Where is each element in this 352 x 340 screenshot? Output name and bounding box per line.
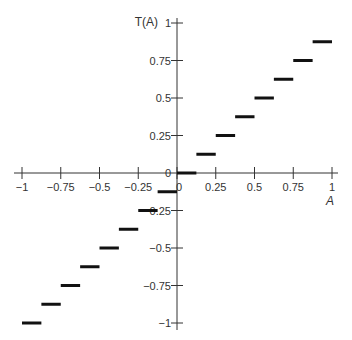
x-tick-label: 0.75 — [283, 181, 304, 193]
y-tick-label: −0.5 — [149, 242, 171, 254]
y-tick-label: 0 — [165, 167, 171, 179]
y-tick-label: −1 — [158, 317, 171, 329]
x-tick-label: −1 — [16, 181, 29, 193]
y-tick-label: −0.75 — [143, 280, 171, 292]
x-tick-label: −0.5 — [89, 181, 111, 193]
y-tick-label: 1 — [165, 17, 171, 29]
y-axis-label: T(A) — [135, 15, 158, 29]
x-axis-label: A — [325, 194, 334, 208]
y-tick-label: 0.25 — [150, 130, 171, 142]
y-tick-label: 0.5 — [156, 92, 171, 104]
x-axis: −1−0.75−0.5−0.250.250.50.7510 A — [14, 167, 338, 208]
x-tick-label: −0.75 — [47, 181, 75, 193]
x-tick-label: 1 — [329, 181, 335, 193]
x-tick-label: −0.25 — [124, 181, 152, 193]
step-chart: −1−0.75−0.5−0.250.250.50.7510 A −1−0.75−… — [0, 0, 352, 340]
x-tick-label: 0.5 — [247, 181, 262, 193]
y-tick-label: 0.75 — [150, 55, 171, 67]
x-tick-label: 0.25 — [205, 181, 226, 193]
